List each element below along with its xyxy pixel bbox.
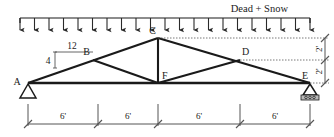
height-dimension-label: 2': [314, 68, 324, 75]
truss-diagram-container: Dead + Snow 12 4 ABCDEF 6'6'6'6': [0, 0, 334, 137]
node-labels-group: ABCDEF: [13, 25, 308, 87]
slope-run-label: 12: [67, 41, 77, 51]
node-label-e: E: [302, 70, 308, 81]
member-F-D: [158, 60, 240, 83]
roller-support-E: [303, 84, 317, 95]
supports-group: [20, 84, 319, 100]
distributed-load-group: [20, 18, 310, 30]
span-dimension-label: 6': [125, 111, 132, 121]
height-dimension-label: 2': [314, 46, 324, 53]
node-label-b: B: [83, 46, 90, 57]
roller-base-plate-E: [301, 95, 319, 100]
slope-rise-label: 4: [46, 56, 51, 66]
node-label-f: F: [162, 70, 168, 81]
span-dimension-label: 6': [60, 111, 67, 121]
span-dimension-group: 6'6'6'6': [24, 104, 314, 128]
node-label-c: C: [149, 25, 156, 36]
member-B-F: [93, 60, 158, 83]
pin-support-A: [20, 84, 36, 98]
truss-diagram-svg: Dead + Snow 12 4 ABCDEF 6'6'6'6': [0, 0, 334, 137]
span-dimension-label: 6': [196, 111, 203, 121]
node-label-d: D: [242, 46, 249, 57]
span-dimension-label: 6': [272, 111, 279, 121]
node-label-a: A: [13, 76, 21, 87]
load-label: Dead + Snow: [231, 3, 289, 14]
